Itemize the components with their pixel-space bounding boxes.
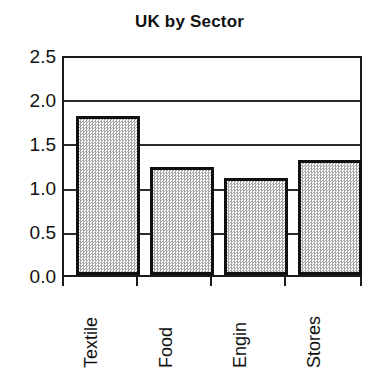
x-tick-label-engin: Engin xyxy=(231,290,249,368)
bar-chart: UK by Sector 2.5 2.0 1.5 1.0 0.5 0.0 Tex… xyxy=(0,0,379,374)
x-axis: Textile Food Engin Stores xyxy=(0,0,379,374)
x-tick-label-stores: Stores xyxy=(305,290,323,368)
x-tick-label-food: Food xyxy=(157,290,175,368)
x-tick-label-textile: Textile xyxy=(82,290,100,368)
